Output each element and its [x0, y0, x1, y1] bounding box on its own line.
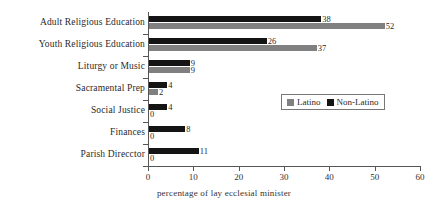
x-axis-tick [420, 166, 421, 171]
bar-latino [149, 89, 158, 95]
bar-latino [149, 45, 317, 51]
y-axis-tick [143, 122, 148, 123]
bar-non-latino [149, 148, 199, 154]
legend-label-non-latino: Non-Latino [337, 97, 379, 107]
category-label: Adult Religious Education [0, 17, 145, 29]
x-axis-tick-label: 30 [264, 172, 304, 182]
x-axis-tick-label: 0 [128, 172, 168, 182]
plot-area: Adult Religious EducationYouth Religious… [0, 0, 448, 211]
category-label-text: Finances [3, 127, 145, 137]
category-label-text: Liturgy or Music [3, 61, 145, 71]
y-axis-tick [143, 34, 148, 35]
legend-label-latino: Latino [297, 97, 321, 107]
bar-non-latino [149, 126, 185, 132]
category-label: Finances [0, 127, 145, 139]
chart-legend: Latino Non-Latino [281, 94, 385, 110]
x-axis-tick-label: 40 [309, 172, 349, 182]
x-axis-tick [239, 166, 240, 171]
x-axis-tick-label: 10 [173, 172, 213, 182]
y-axis-tick [143, 100, 148, 101]
bar-value-label: 0 [150, 109, 154, 119]
x-axis-tick [148, 166, 149, 171]
category-label: Liturgy or Music [0, 61, 145, 73]
category-label: Social Justice [0, 105, 145, 117]
category-label-text: Adult Religious Education [3, 17, 145, 27]
bar-value-label: 52 [386, 21, 395, 31]
x-axis-tick-label: 50 [355, 172, 395, 182]
x-axis-tick [329, 166, 330, 171]
category-label: Youth Religious Education [0, 39, 145, 51]
x-axis-tick [284, 166, 285, 171]
bar-value-label: 4 [168, 80, 172, 90]
x-axis-tick [193, 166, 194, 171]
bar-value-label: 11 [200, 146, 208, 156]
bar-non-latino [149, 60, 190, 66]
legend-item-latino: Latino [287, 97, 321, 107]
x-axis-tick [375, 166, 376, 171]
category-label-text: Youth Religious Education [3, 39, 145, 49]
black-square-icon [327, 99, 334, 106]
bar-value-label: 0 [150, 131, 154, 141]
category-label-text: Parish Direcctor [3, 149, 145, 159]
bar-value-label: 8 [186, 124, 190, 134]
category-label-text: Social Justice [3, 105, 145, 115]
bar-value-label: 2 [159, 87, 163, 97]
x-axis-tick-label: 60 [400, 172, 440, 182]
y-axis-tick [143, 56, 148, 57]
bar-non-latino [149, 82, 167, 88]
legend-item-non-latino: Non-Latino [327, 97, 379, 107]
bar-latino [149, 67, 190, 73]
bar-value-label: 4 [168, 102, 172, 112]
y-axis-tick [143, 144, 148, 145]
bar-non-latino [149, 16, 321, 22]
bar-value-label: 9 [191, 65, 195, 75]
chart-figure: Adult Religious EducationYouth Religious… [0, 0, 448, 211]
bar-value-label: 37 [318, 43, 327, 53]
x-axis-tick-label: 20 [219, 172, 259, 182]
bar-non-latino [149, 38, 267, 44]
category-label: Sacramental Prep [0, 83, 145, 95]
category-label-text: Sacramental Prep [3, 83, 145, 93]
bar-latino [149, 23, 385, 29]
y-axis-tick [143, 78, 148, 79]
gray-square-icon [287, 99, 294, 106]
category-label: Parish Direcctor [0, 149, 145, 161]
x-axis-title: percentage of lay ecclesial minister [0, 188, 448, 198]
bar-value-label: 0 [150, 153, 154, 163]
